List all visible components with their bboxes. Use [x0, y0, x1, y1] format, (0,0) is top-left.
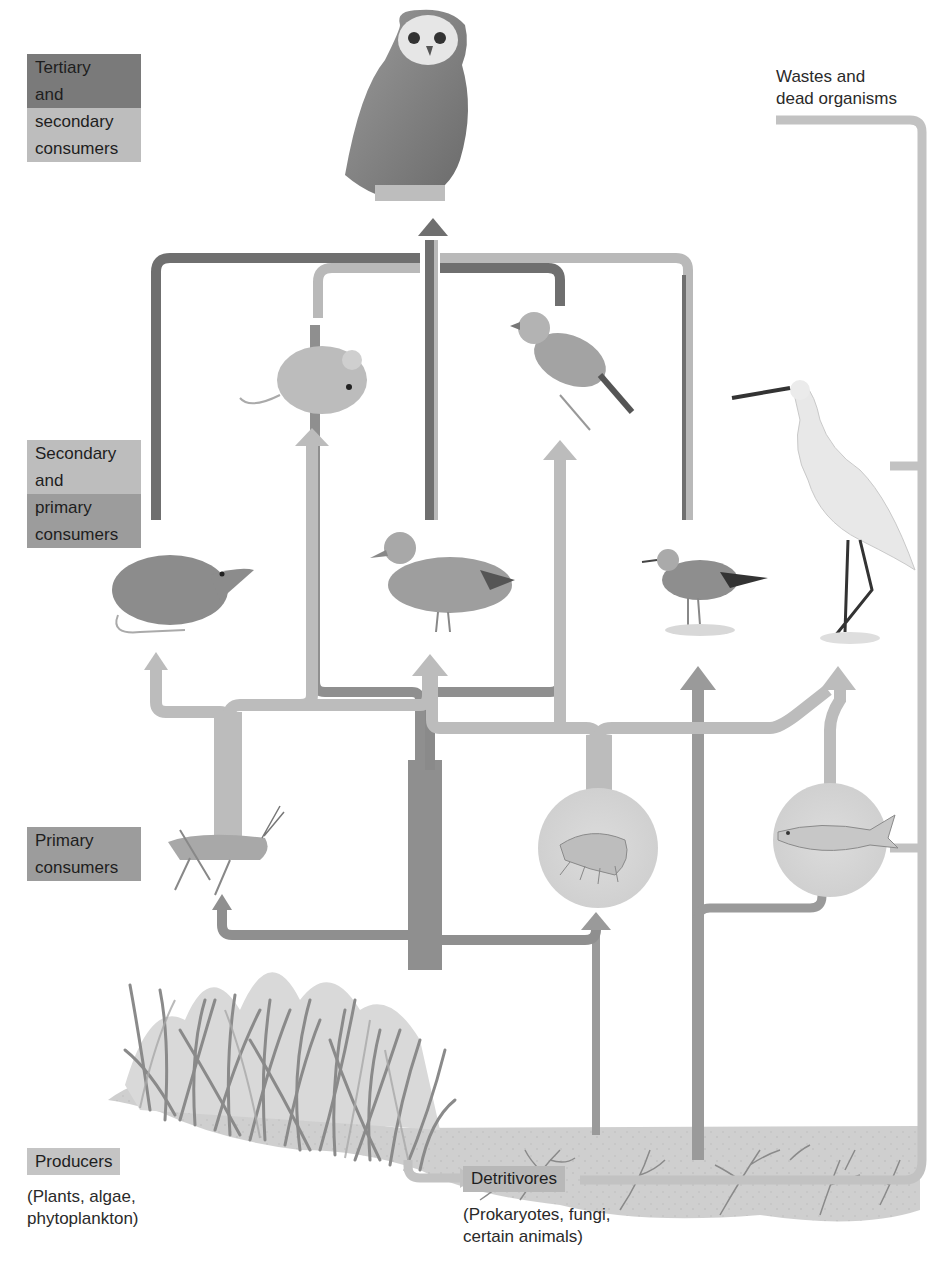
amphipod-circle [538, 788, 658, 908]
label-line: Secondary [35, 440, 133, 467]
fish-circle [773, 783, 898, 897]
label-line: primary [35, 494, 133, 521]
wastes-line: dead organisms [776, 88, 897, 110]
label-producers: Producers [27, 1148, 120, 1175]
arrowheads-light [144, 428, 856, 690]
sandpiper-illustration [642, 549, 768, 636]
label-line: consumers [35, 854, 133, 881]
label-line: and [35, 81, 133, 108]
food-web-diagram [0, 0, 942, 1284]
wastes-line: Wastes and [776, 66, 897, 88]
desc-line: (Prokaryotes, fungi, [463, 1204, 610, 1226]
producers-title: Producers [35, 1152, 112, 1171]
label-line: and [35, 467, 133, 494]
label-detritivores: Detritivores [463, 1166, 565, 1192]
detritivores-title: Detritivores [471, 1169, 557, 1188]
label-line: consumers [35, 135, 133, 162]
label-line: Primary [35, 827, 133, 854]
mouse-illustration [240, 346, 367, 414]
label-secondary-consumers: Secondary and primary consumers [27, 440, 141, 548]
desc-line: (Plants, algae, [27, 1186, 139, 1208]
label-wastes: Wastes and dead organisms [776, 66, 897, 110]
desc-line: phytoplankton) [27, 1208, 139, 1230]
label-line: Tertiary [35, 54, 133, 81]
producers-description: (Plants, algae, phytoplankton) [27, 1186, 139, 1230]
label-line: secondary [35, 108, 133, 135]
wastes-flow [408, 120, 922, 1180]
duck-illustration [370, 532, 515, 632]
arrowhead-to-owl [418, 218, 448, 236]
label-line: consumers [35, 521, 133, 548]
primary-consumer-flows [156, 440, 840, 838]
desc-line: certain animals) [463, 1226, 610, 1248]
shrew-illustration [112, 555, 254, 632]
label-primary-consumers: Primary consumers [27, 827, 141, 881]
sparrow-illustration [510, 312, 632, 430]
owl-illustration [345, 10, 468, 201]
producer-flows [212, 325, 596, 970]
label-tertiary-consumers: Tertiary and secondary consumers [27, 54, 141, 162]
egret-illustration [732, 380, 915, 644]
detritivores-description: (Prokaryotes, fungi, certain animals) [463, 1204, 610, 1248]
detritivore-flows [581, 666, 832, 1160]
